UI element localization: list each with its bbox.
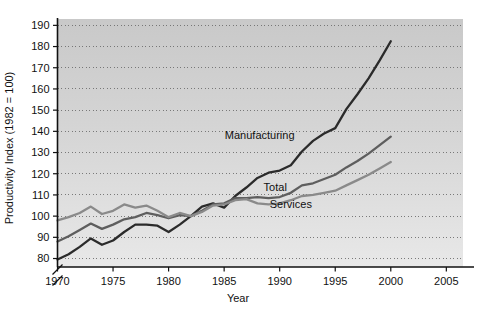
x-tick-label-1995: 1995 [323,275,347,287]
y-tick-label-150: 150 [31,104,49,116]
y-tick-label-160: 160 [31,83,49,95]
y-tick-label-140: 140 [31,125,49,137]
y-tick-label-100: 100 [31,210,49,222]
x-tick-label-1990: 1990 [267,275,291,287]
series-label-services: Services [270,198,313,210]
y-tick-label-130: 130 [31,146,49,158]
y-tick-label-90: 90 [37,231,49,243]
y-axis-title: Productivity Index (1982 = 100) [3,72,15,225]
y-tick-label-120: 120 [31,168,49,180]
y-tick-label-190: 190 [31,19,49,31]
x-tick-label-2000: 2000 [379,275,403,287]
y-tick-label-110: 110 [32,189,50,201]
productivity-index-chart: 8090100110120130140150160170180190 19701… [0,0,477,319]
x-tick-label-1980: 1980 [156,275,180,287]
plot-background [58,19,464,267]
y-tick-label-80: 80 [37,252,49,264]
x-tick-label-2005: 2005 [434,275,458,287]
x-tick-label-1985: 1985 [212,275,236,287]
series-label-manufacturing: Manufacturing [225,129,295,141]
y-tick-label-180: 180 [31,40,49,52]
plot-area: 8090100110120130140150160170180190 19701… [31,18,474,287]
x-tick-label-1975: 1975 [101,275,125,287]
chart-canvas: 8090100110120130140150160170180190 19701… [0,0,477,319]
y-tick-label-170: 170 [31,62,49,74]
x-axis-title: Year [227,292,250,304]
series-label-total: Total [264,181,287,193]
